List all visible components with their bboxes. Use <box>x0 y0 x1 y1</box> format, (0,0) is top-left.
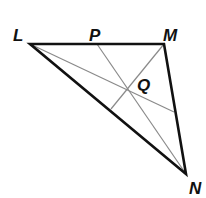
label-n: N <box>189 179 202 198</box>
triangle-diagram: L P M Q N <box>0 0 206 198</box>
label-m: M <box>163 26 178 45</box>
segment-p-to-n <box>97 44 186 174</box>
triangle-lmn <box>30 44 186 174</box>
label-q: Q <box>137 76 150 95</box>
label-p: P <box>89 26 101 45</box>
segment-l-to-mn <box>30 44 174 112</box>
label-l: L <box>13 26 23 45</box>
